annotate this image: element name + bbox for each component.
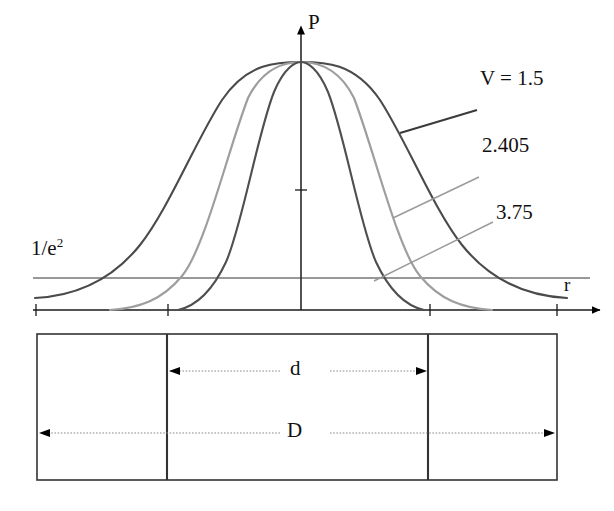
threshold-label-base: 1/e [31,236,57,260]
gaussian-mode-profile-figure: P r V = 1.5 2.405 3.75 1/e2 d D [0,0,614,511]
cladding-diameter-label: D [287,420,302,441]
leader-line-v-3-75 [374,222,493,281]
y-axis-label: P [308,12,320,33]
leader-line-v-1-5 [400,110,477,133]
threshold-label-exponent: 2 [57,235,64,250]
threshold-label: 1/e2 [31,236,63,259]
core-diameter-label: d [290,358,301,379]
leader-line-v-2-405 [393,177,479,218]
curve-label-v-3-75: 3.75 [496,202,533,223]
curve-label-v-2-405: 2.405 [482,135,529,156]
x-axis-label: r [564,275,570,294]
curve-label-v-1-5: V = 1.5 [480,68,543,89]
